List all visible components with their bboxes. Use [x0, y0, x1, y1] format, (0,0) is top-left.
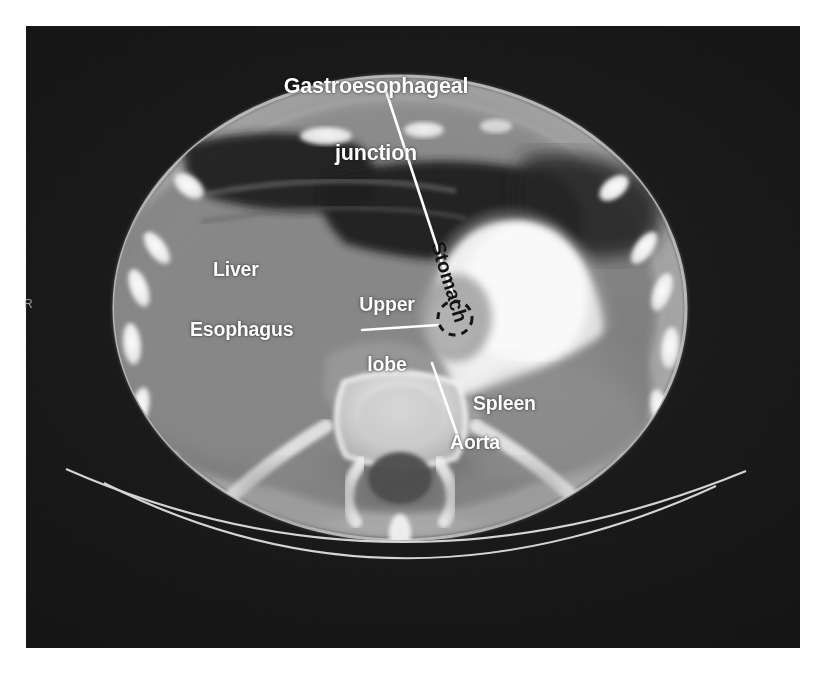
label-aorta: Aorta [450, 432, 500, 452]
ct-figure-root: Gastroesophageal junction Liver Upper lo… [0, 0, 820, 673]
label-spleen: Spleen [473, 393, 536, 413]
label-liver: Liver [213, 259, 259, 279]
label-upper-lobe-line1: Upper [341, 294, 433, 314]
orientation-marker-right: R [24, 297, 33, 311]
label-ge-junction-line2: junction [262, 142, 490, 164]
label-upper-lobe-line2: lobe [341, 354, 433, 374]
label-gastroesophageal-junction: Gastroesophageal junction [262, 30, 490, 209]
label-esophagus: Esophagus [190, 319, 293, 339]
label-upper-lobe: Upper lobe [341, 253, 433, 415]
label-ge-junction-line1: Gastroesophageal [262, 75, 490, 97]
